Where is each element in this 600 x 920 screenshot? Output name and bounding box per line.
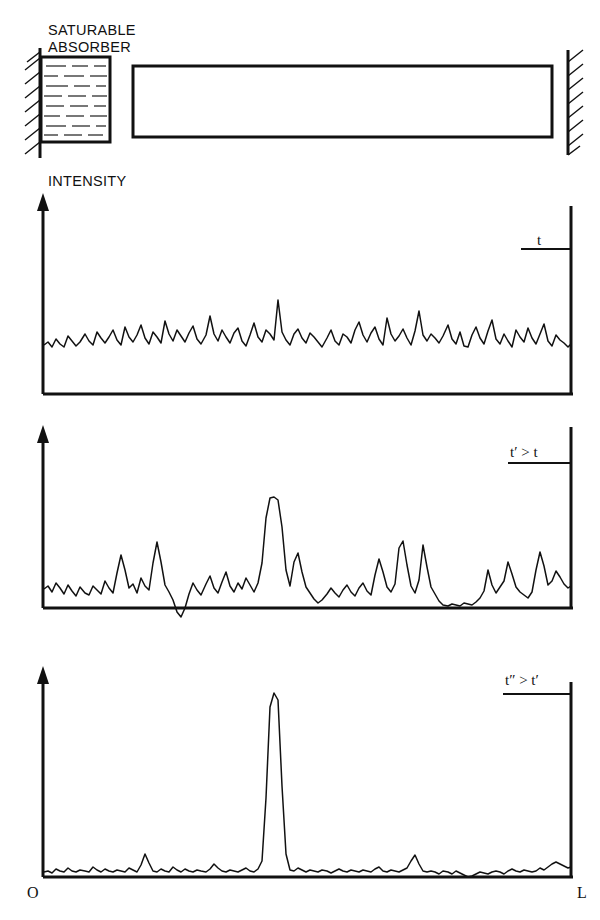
y-axis-arrow-icon [37, 425, 49, 443]
panel-1-curve [44, 300, 571, 347]
left-mirror-icon [25, 48, 40, 158]
saturable-absorber-label: SATURABLEABSORBER [48, 22, 136, 56]
laser-rod [133, 66, 552, 137]
x-axis-length-label: L [577, 884, 587, 902]
panel-3-curve [44, 693, 571, 877]
x-axis-origin-label: O [27, 884, 39, 902]
apparatus-diagram [25, 48, 583, 158]
intensity-axis-label: INTENSITY [48, 173, 126, 189]
panel-2-time-label: t′ > t [510, 444, 538, 461]
absorber-medium-dashes [44, 66, 107, 135]
y-axis-arrow-icon [37, 666, 49, 684]
panel-1-time-label: t [537, 232, 541, 249]
panel-2-growing-pulse-trace [37, 425, 573, 617]
panel-3-time-label: t″ > t′ [505, 672, 539, 689]
panel-3-single-pulse-trace [37, 666, 573, 877]
panel-1-noise-trace [37, 193, 573, 394]
panel-2-curve [44, 497, 571, 617]
y-axis-arrow-icon [37, 193, 49, 211]
saturable-absorber-cell [41, 57, 110, 142]
right-mirror-icon [568, 50, 583, 155]
